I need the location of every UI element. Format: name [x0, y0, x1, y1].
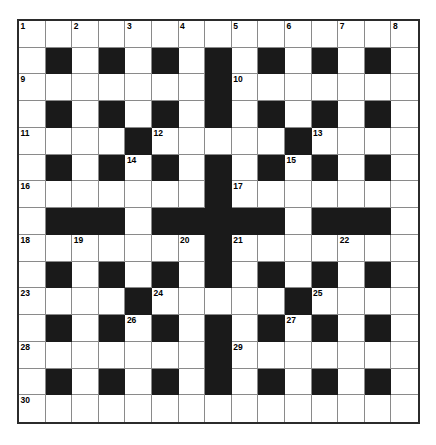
- letter-cell[interactable]: [285, 101, 312, 128]
- letter-cell[interactable]: [391, 369, 418, 396]
- letter-cell[interactable]: [285, 208, 312, 235]
- letter-cell[interactable]: 2: [72, 21, 99, 48]
- letter-cell[interactable]: [365, 288, 392, 315]
- letter-cell[interactable]: [179, 74, 206, 101]
- letter-cell[interactable]: [258, 74, 285, 101]
- letter-cell[interactable]: [19, 101, 46, 128]
- letter-cell[interactable]: [99, 181, 126, 208]
- letter-cell[interactable]: [232, 315, 259, 342]
- letter-cell[interactable]: [312, 342, 339, 369]
- letter-cell[interactable]: [258, 395, 285, 422]
- letter-cell[interactable]: [338, 74, 365, 101]
- letter-cell[interactable]: [391, 262, 418, 289]
- letter-cell[interactable]: [125, 181, 152, 208]
- letter-cell[interactable]: 9: [19, 74, 46, 101]
- letter-cell[interactable]: [179, 262, 206, 289]
- letter-cell[interactable]: [72, 155, 99, 182]
- letter-cell[interactable]: [205, 395, 232, 422]
- letter-cell[interactable]: [125, 48, 152, 75]
- letter-cell[interactable]: [285, 74, 312, 101]
- letter-cell[interactable]: 1: [19, 21, 46, 48]
- letter-cell[interactable]: 4: [179, 21, 206, 48]
- letter-cell[interactable]: [391, 288, 418, 315]
- letter-cell[interactable]: [205, 128, 232, 155]
- letter-cell[interactable]: [72, 342, 99, 369]
- letter-cell[interactable]: [338, 101, 365, 128]
- letter-cell[interactable]: 14: [125, 155, 152, 182]
- letter-cell[interactable]: [338, 315, 365, 342]
- letter-cell[interactable]: [338, 288, 365, 315]
- letter-cell[interactable]: 11: [19, 128, 46, 155]
- letter-cell[interactable]: [72, 128, 99, 155]
- letter-cell[interactable]: 15: [285, 155, 312, 182]
- letter-cell[interactable]: [72, 262, 99, 289]
- letter-cell[interactable]: 29: [232, 342, 259, 369]
- letter-cell[interactable]: [72, 369, 99, 396]
- letter-cell[interactable]: [125, 101, 152, 128]
- letter-cell[interactable]: [179, 395, 206, 422]
- letter-cell[interactable]: [365, 128, 392, 155]
- letter-cell[interactable]: [99, 128, 126, 155]
- letter-cell[interactable]: [232, 128, 259, 155]
- letter-cell[interactable]: 30: [19, 395, 46, 422]
- letter-cell[interactable]: [258, 288, 285, 315]
- letter-cell[interactable]: 6: [285, 21, 312, 48]
- letter-cell[interactable]: [46, 74, 73, 101]
- letter-cell[interactable]: [258, 181, 285, 208]
- letter-cell[interactable]: [338, 128, 365, 155]
- letter-cell[interactable]: 16: [19, 181, 46, 208]
- letter-cell[interactable]: 25: [312, 288, 339, 315]
- letter-cell[interactable]: [99, 74, 126, 101]
- letter-cell[interactable]: [205, 21, 232, 48]
- letter-cell[interactable]: [72, 315, 99, 342]
- letter-cell[interactable]: [179, 48, 206, 75]
- letter-cell[interactable]: [232, 48, 259, 75]
- letter-cell[interactable]: 26: [125, 315, 152, 342]
- letter-cell[interactable]: [338, 48, 365, 75]
- letter-cell[interactable]: [179, 101, 206, 128]
- letter-cell[interactable]: [125, 235, 152, 262]
- letter-cell[interactable]: [99, 235, 126, 262]
- letter-cell[interactable]: [391, 342, 418, 369]
- letter-cell[interactable]: [232, 155, 259, 182]
- letter-cell[interactable]: [285, 395, 312, 422]
- letter-cell[interactable]: 23: [19, 288, 46, 315]
- letter-cell[interactable]: [179, 128, 206, 155]
- letter-cell[interactable]: [179, 181, 206, 208]
- letter-cell[interactable]: [258, 235, 285, 262]
- letter-cell[interactable]: [391, 395, 418, 422]
- letter-cell[interactable]: 24: [152, 288, 179, 315]
- letter-cell[interactable]: [391, 101, 418, 128]
- letter-cell[interactable]: [312, 74, 339, 101]
- letter-cell[interactable]: 17: [232, 181, 259, 208]
- letter-cell[interactable]: [391, 208, 418, 235]
- letter-cell[interactable]: [365, 21, 392, 48]
- letter-cell[interactable]: [205, 288, 232, 315]
- letter-cell[interactable]: [152, 181, 179, 208]
- letter-cell[interactable]: [285, 181, 312, 208]
- letter-cell[interactable]: [391, 74, 418, 101]
- letter-cell[interactable]: [232, 262, 259, 289]
- letter-cell[interactable]: [19, 262, 46, 289]
- letter-cell[interactable]: [179, 315, 206, 342]
- letter-cell[interactable]: [179, 288, 206, 315]
- letter-cell[interactable]: [232, 101, 259, 128]
- letter-cell[interactable]: 7: [338, 21, 365, 48]
- letter-cell[interactable]: [99, 395, 126, 422]
- letter-cell[interactable]: [391, 155, 418, 182]
- letter-cell[interactable]: [125, 74, 152, 101]
- letter-cell[interactable]: [338, 181, 365, 208]
- letter-cell[interactable]: 8: [391, 21, 418, 48]
- letter-cell[interactable]: [46, 128, 73, 155]
- letter-cell[interactable]: [46, 342, 73, 369]
- letter-cell[interactable]: [152, 21, 179, 48]
- letter-cell[interactable]: [338, 395, 365, 422]
- letter-cell[interactable]: [312, 181, 339, 208]
- letter-cell[interactable]: [338, 342, 365, 369]
- letter-cell[interactable]: [72, 48, 99, 75]
- letter-cell[interactable]: [391, 128, 418, 155]
- letter-cell[interactable]: [46, 181, 73, 208]
- letter-cell[interactable]: [365, 342, 392, 369]
- letter-cell[interactable]: [312, 235, 339, 262]
- crossword-grid[interactable]: 1234567891011121314151617181920212223242…: [17, 19, 420, 424]
